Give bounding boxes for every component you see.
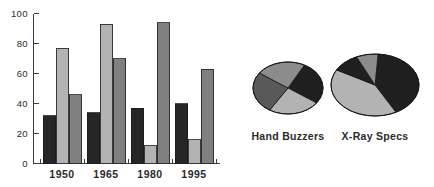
- bar-1980-series-3: [157, 23, 170, 164]
- y-tick-label-100: 100: [11, 8, 28, 19]
- x-axis-tick-labels: 1950 1965 1980 1995: [49, 168, 206, 180]
- x-tick-label-1995: 1995: [181, 168, 206, 180]
- bar-1950-series-1: [43, 116, 56, 164]
- pie-chart-xray-specs: [331, 54, 419, 116]
- bar-1995-series-1: [175, 104, 188, 164]
- bar-1995-series-2: [188, 140, 201, 164]
- bar-1965-series-2: [100, 24, 113, 164]
- y-tick-label-40: 40: [17, 98, 28, 109]
- bar-1980-series-1: [131, 108, 144, 164]
- figure-canvas: 100 80 60 40 20 0 1950 1965 1980: [0, 0, 434, 187]
- bar-chart-svg: 100 80 60 40 20 0 1950 1965 1980: [0, 0, 225, 187]
- bar-1950-series-2: [56, 48, 69, 164]
- bar-1965-series-3: [113, 59, 126, 164]
- bar-1980-series-2: [144, 146, 157, 164]
- y-tick-label-0: 0: [22, 158, 28, 169]
- y-axis-ticks: [34, 14, 39, 164]
- pie-charts-svg: Hand Buzzers X-Ray Specs: [235, 0, 434, 187]
- y-tick-label-60: 60: [17, 68, 28, 79]
- y-tick-label-80: 80: [17, 38, 28, 49]
- pie-chart-panel: Hand Buzzers X-Ray Specs: [235, 0, 434, 187]
- bar-1965-series-1: [87, 113, 100, 164]
- bar-chart-panel: 100 80 60 40 20 0 1950 1965 1980: [0, 0, 225, 187]
- y-axis-tick-labels: 100 80 60 40 20 0: [11, 8, 28, 169]
- y-tick-label-20: 20: [17, 128, 28, 139]
- pie-chart-hand-buzzers: [253, 62, 323, 114]
- bar-series-group: [43, 23, 214, 164]
- x-tick-label-1980: 1980: [137, 168, 162, 180]
- bar-1995-series-3: [201, 69, 214, 164]
- x-tick-label-1965: 1965: [93, 168, 118, 180]
- x-tick-label-1950: 1950: [49, 168, 74, 180]
- pie-caption-xray-specs: X-Ray Specs: [342, 130, 409, 142]
- bar-1950-series-3: [69, 95, 82, 164]
- pie-caption-hand-buzzers: Hand Buzzers: [251, 130, 324, 142]
